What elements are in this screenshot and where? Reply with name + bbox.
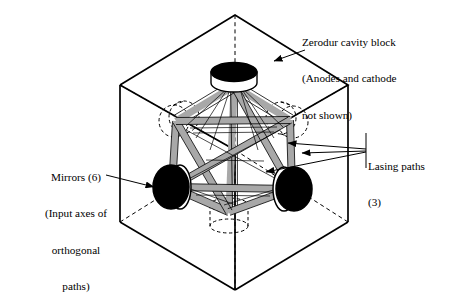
mirrors-label: Mirrors (6) (Input axes of orthogonal pa…: [18, 147, 134, 307]
lasing-paths-label: Lasing paths (3): [368, 136, 425, 233]
mirrors-label-line-2: (Input axes of: [18, 207, 134, 219]
lasing-leader-arrow-2: [302, 151, 366, 153]
mirror-top[interactable]: [211, 63, 257, 93]
mirrors-label-line-1: Mirrors (6): [18, 171, 134, 183]
mirrors-label-line-3: orthogonal: [18, 244, 134, 256]
zerodur-label-line-1: Zerodur cavity block: [302, 36, 396, 48]
zerodur-label-line-2: (Anodes and cathode: [302, 72, 396, 84]
zerodur-label-line-3: not shown): [302, 109, 396, 121]
mirror-bottom-right[interactable]: [273, 167, 312, 211]
mirrors-label-line-4: paths): [18, 280, 134, 292]
zerodur-cavity-block-label: Zerodur cavity block (Anodes and cathode…: [302, 12, 396, 145]
lasing-label-line-1: Lasing paths: [368, 160, 425, 172]
diagram-canvas: Zerodur cavity block (Anodes and cathode…: [0, 0, 452, 307]
mirror-bottom-left[interactable]: [153, 165, 191, 209]
lasing-label-line-2: (3): [368, 196, 425, 208]
